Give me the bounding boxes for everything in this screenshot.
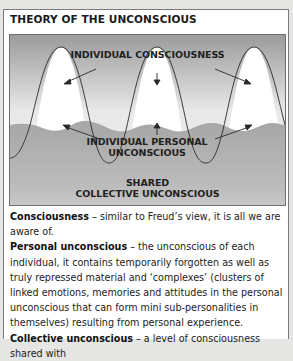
desc-personal-unconscious: – the unconscious of each individual, it… bbox=[10, 241, 282, 328]
term-personal-unconscious: Personal unconscious bbox=[10, 241, 127, 252]
unconscious-diagram: INDIVIDUAL CONSCIOUSNESS INDIVIDUAL PERS… bbox=[9, 34, 286, 206]
label-collective-unconscious: COLLECTIVE UNCONSCIOUS bbox=[10, 188, 285, 199]
label-individual-consciousness: INDIVIDUAL CONSCIOUSNESS bbox=[10, 49, 285, 60]
definition-collective-unconscious: Collective unconscious – a level of cons… bbox=[10, 331, 290, 361]
label-shared: SHARED bbox=[10, 177, 285, 188]
term-consciousness: Consciousness bbox=[10, 211, 89, 222]
definitions: Consciousness – similar to Freud’s view,… bbox=[10, 209, 290, 361]
label-individual-personal-unconscious-line2: UNCONSCIOUS bbox=[67, 147, 227, 158]
definition-consciousness: Consciousness – similar to Freud’s view,… bbox=[10, 209, 290, 239]
label-individual-personal-unconscious-line1: INDIVIDUAL PERSONAL bbox=[67, 136, 227, 147]
figure-title: THEORY OF THE UNCONSCIOUS bbox=[10, 13, 197, 25]
definition-personal-unconscious: Personal unconscious – the unconscious o… bbox=[10, 239, 290, 330]
term-collective-unconscious: Collective unconscious bbox=[10, 333, 133, 344]
